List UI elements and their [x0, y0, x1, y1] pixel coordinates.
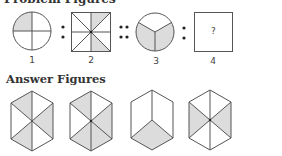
problem-figure-4: ? — [194, 12, 233, 52]
figure-label-1: 1 — [22, 55, 42, 65]
problem-figure-3 — [134, 11, 176, 53]
problem-figures-title: Problem Figures — [4, 0, 116, 6]
answer-option-4[interactable] — [188, 90, 232, 150]
ratio-separator — [61, 24, 65, 40]
answer-option-1[interactable] — [10, 91, 54, 151]
figure-label-2: 2 — [81, 55, 101, 65]
answer-option-3[interactable] — [130, 90, 174, 150]
problem-figure-1 — [12, 11, 52, 51]
ratio-double-separator — [119, 24, 129, 40]
ratio-separator — [182, 25, 186, 41]
problem-figure-2 — [71, 12, 111, 52]
answer-figures-title: Answer Figures — [6, 72, 106, 86]
figure-label-3: 3 — [146, 56, 166, 66]
answer-option-2[interactable] — [69, 91, 113, 151]
figure-label-4: 4 — [203, 56, 223, 66]
question-mark: ? — [195, 26, 232, 36]
